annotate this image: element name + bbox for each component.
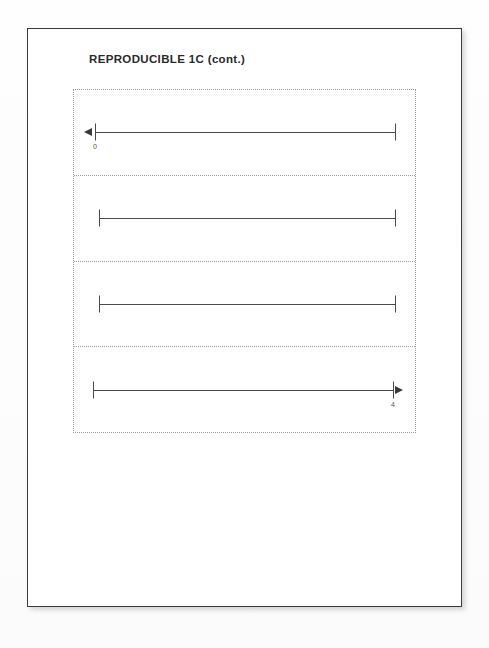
number-line-axis xyxy=(99,218,395,219)
tick-mark-right xyxy=(395,124,396,141)
number-line-axis xyxy=(93,390,393,391)
worksheet-page: REPRODUCIBLE 1C (cont.) 0 4 xyxy=(27,28,462,607)
tick-mark-right xyxy=(395,295,396,312)
number-line-axis xyxy=(99,304,395,305)
number-line-row-4: 4 xyxy=(74,347,415,432)
tick-label-left: 0 xyxy=(93,143,97,150)
page-title: REPRODUCIBLE 1C (cont.) xyxy=(89,53,245,65)
number-line-row-1: 0 xyxy=(74,90,415,176)
worksheet-frame: 0 4 xyxy=(73,89,416,433)
arrow-left-icon xyxy=(84,128,92,136)
tick-mark-right xyxy=(395,210,396,227)
number-line-row-3 xyxy=(74,262,415,348)
tick-mark-right xyxy=(393,381,394,398)
number-line-axis xyxy=(95,132,395,133)
number-line-row-2 xyxy=(74,176,415,262)
tick-label-right: 4 xyxy=(391,401,395,408)
arrow-right-icon xyxy=(395,386,403,394)
